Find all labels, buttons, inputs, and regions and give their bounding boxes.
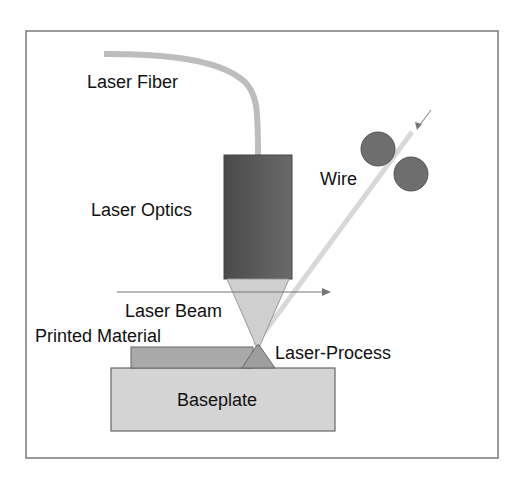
label-laser-beam: Laser Beam xyxy=(125,302,222,320)
wire-roller-upper xyxy=(361,132,395,166)
label-printed-material: Printed Material xyxy=(35,327,161,345)
label-wire: Wire xyxy=(320,170,357,188)
label-laser-fiber: Laser Fiber xyxy=(87,73,178,91)
label-baseplate: Baseplate xyxy=(177,391,257,409)
label-laser-process: Laser-Process xyxy=(275,344,391,362)
wire-roller-lower xyxy=(394,157,428,191)
laser-optics xyxy=(224,155,292,279)
printed-material xyxy=(131,347,253,368)
diagram-canvas xyxy=(0,0,529,481)
label-laser-optics: Laser Optics xyxy=(91,201,192,219)
